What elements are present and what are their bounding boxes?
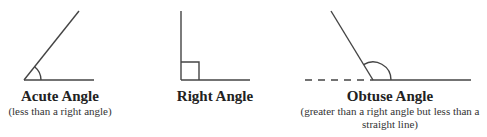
acute-arc [35,67,41,80]
acute-angle-figure [24,11,94,80]
acute-ray [24,11,79,80]
right-angle-figure [181,11,250,80]
obtuse-angle-subtitle: (greater than a right angle but less tha… [300,105,480,131]
acute-angle-label: Acute Angle (less than a right angle) [0,88,120,118]
obtuse-angle-title: Obtuse Angle [300,88,480,105]
acute-angle-subtitle: (less than a right angle) [0,105,120,118]
obtuse-ray [331,11,373,80]
acute-angle-title: Acute Angle [0,88,120,105]
obtuse-angle-figure [305,11,471,80]
right-angle-square [181,62,199,80]
right-angle-label: Right Angle [155,88,275,105]
right-angle-title: Right Angle [155,88,275,105]
obtuse-angle-label: Obtuse Angle (greater than a right angle… [300,88,480,131]
